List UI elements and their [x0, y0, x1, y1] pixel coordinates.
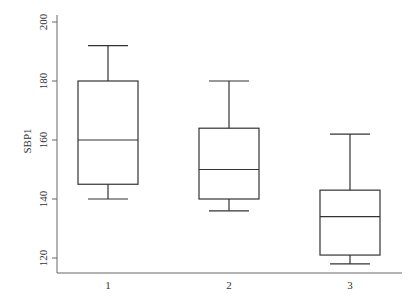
- box-iqr: [78, 81, 138, 184]
- y-tick-label: 200: [37, 13, 49, 30]
- box-iqr: [199, 128, 259, 199]
- box-iqr: [320, 190, 380, 255]
- y-tick-label: 120: [37, 249, 49, 266]
- y-tick-label: 180: [37, 72, 49, 89]
- x-tick-label: 2: [226, 279, 232, 291]
- x-tick-label: 3: [347, 279, 353, 291]
- y-tick-label: 160: [37, 131, 49, 148]
- y-axis-label: SBP1: [21, 128, 33, 153]
- box-plot: 120140160180200SBP1123: [0, 0, 419, 305]
- y-tick-label: 140: [37, 190, 49, 207]
- x-tick-label: 1: [105, 279, 111, 291]
